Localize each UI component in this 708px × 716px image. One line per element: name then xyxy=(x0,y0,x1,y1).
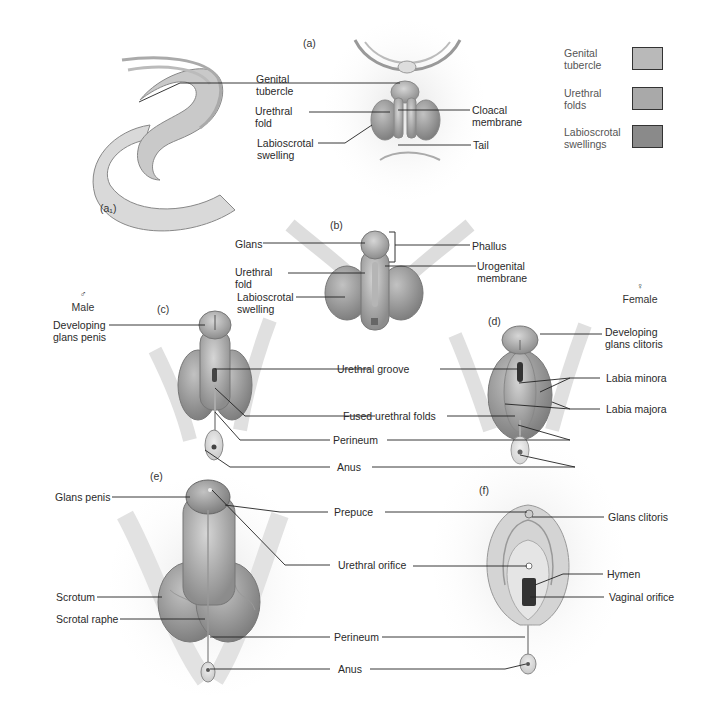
label-urethral-fold-a: Urethral fold xyxy=(255,105,292,129)
panel-label-e: (e) xyxy=(150,470,163,482)
label-cloacal-membrane: Cloacal membrane xyxy=(472,104,522,128)
male-label: ♂ Male xyxy=(68,288,98,314)
label-prepuce: Prepuce xyxy=(334,506,373,518)
female-label: ♀ Female xyxy=(620,280,660,306)
label-developing-glans-clitoris: Developing glans clitoris xyxy=(605,326,663,350)
label-tail: Tail xyxy=(473,139,489,151)
label-phallus: Phallus xyxy=(472,240,506,252)
label-anus-e: Anus xyxy=(338,663,362,675)
panel-label-c: (c) xyxy=(157,303,169,315)
label-perineum-c: Perineum xyxy=(333,434,378,446)
label-urogenital-membrane: Urogenital membrane xyxy=(477,260,527,284)
label-developing-glans-penis: Developing glans penis xyxy=(53,319,106,343)
label-genital-tubercle: Genital tubercle xyxy=(256,73,293,97)
label-urethral-groove: Urethral groove xyxy=(337,363,409,375)
label-glans: Glans xyxy=(235,238,262,250)
label-fused-urethral-folds: Fused urethral folds xyxy=(343,410,436,422)
legend-swatch-labioscrotal-swellings xyxy=(632,125,663,148)
panel-label-a: (a) xyxy=(303,37,316,49)
label-glans-clitoris: Glans clitoris xyxy=(608,511,668,523)
label-hymen: Hymen xyxy=(607,568,640,580)
female-symbol-icon: ♀ xyxy=(620,280,660,293)
legend-swatch-urethral-folds xyxy=(632,87,663,110)
label-labia-minora: Labia minora xyxy=(606,372,667,384)
anatomical-illustrations xyxy=(0,0,708,716)
panel-f-illustration xyxy=(433,440,623,680)
panel-e-illustration xyxy=(110,475,310,695)
panel-label-b: (b) xyxy=(330,219,343,231)
legend-label-urethral-folds: Urethral folds xyxy=(564,87,601,111)
label-scrotal-raphe: Scrotal raphe xyxy=(56,613,118,625)
legend-label-genital-tubercle: Genital tubercle xyxy=(564,47,601,71)
label-vaginal-orifice: Vaginal orifice xyxy=(609,591,674,603)
label-glans-penis: Glans penis xyxy=(55,491,110,503)
panel-c-illustration xyxy=(155,311,270,460)
label-labia-majora: Labia majora xyxy=(606,403,667,415)
panel-b-illustration xyxy=(290,225,470,330)
male-symbol-icon: ♂ xyxy=(68,288,98,301)
legend-swatch-genital-tubercle xyxy=(632,47,663,70)
label-scrotum: Scrotum xyxy=(56,591,95,603)
panel-label-a1: (a₁) xyxy=(100,202,116,214)
panel-label-d: (d) xyxy=(488,315,501,327)
label-urethral-orifice: Urethral orifice xyxy=(338,559,406,571)
label-perineum-e: Perineum xyxy=(334,631,379,643)
legend-label-labioscrotal-swellings: Labioscrotal swellings xyxy=(564,126,621,150)
label-urethral-fold-b: Urethral fold xyxy=(235,266,272,290)
label-anus-c: Anus xyxy=(337,461,361,473)
label-labioscrotal-swelling-b: Labioscrotal swelling xyxy=(237,291,294,315)
panel-label-f: (f) xyxy=(479,484,489,496)
label-labioscrotal-swelling-a: Labioscrotal swelling xyxy=(257,137,314,161)
